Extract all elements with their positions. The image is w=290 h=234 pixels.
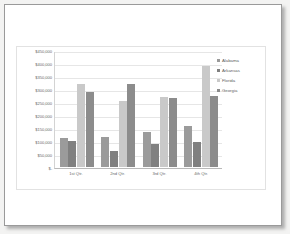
chart-legend: AlabamaArkansasFloridaGeorgia xyxy=(217,55,255,95)
bar-florida[interactable] xyxy=(160,97,168,167)
y-axis-tick-label: $300,000 xyxy=(35,89,52,93)
y-axis-tick-label: $50,000 xyxy=(38,154,52,158)
legend-swatch-icon xyxy=(217,59,220,62)
screenshot-canvas: $450,000$400,000$350,000$300,000$250,000… xyxy=(0,0,290,234)
legend-label: Arkansas xyxy=(222,68,240,73)
y-axis-tick-label: $200,000 xyxy=(35,115,52,119)
bar-georgia[interactable] xyxy=(169,98,177,167)
plot-area xyxy=(54,52,222,169)
legend-label: Florida xyxy=(222,78,235,83)
bar-alabama[interactable] xyxy=(60,138,68,167)
bar-arkansas[interactable] xyxy=(193,142,201,167)
legend-swatch-icon xyxy=(217,79,220,82)
legend-swatch-icon xyxy=(217,89,220,92)
bar-georgia[interactable] xyxy=(127,84,135,167)
legend-label: Georgia xyxy=(222,88,237,93)
bar-alabama[interactable] xyxy=(101,137,109,167)
x-axis: 1st Qtr.2nd Qtr.3rd Qtr.4th Qtr. xyxy=(55,171,222,176)
y-axis-tick-label: $350,000 xyxy=(35,76,52,80)
y-axis-tick-label: $150,000 xyxy=(35,128,52,132)
x-axis-tick-label: 4th Qtr. xyxy=(180,171,222,176)
legend-item[interactable]: Florida xyxy=(217,75,255,85)
bar-group xyxy=(98,52,140,167)
legend-swatch-icon xyxy=(217,69,220,72)
legend-label: Alabama xyxy=(222,58,239,63)
bar-arkansas[interactable] xyxy=(110,151,118,167)
y-axis-tick-label: $100,000 xyxy=(35,141,52,145)
x-axis-tick-label: 3rd Qtr. xyxy=(139,171,181,176)
legend-item[interactable]: Arkansas xyxy=(217,65,255,75)
y-axis-tick-label: $- xyxy=(48,167,52,171)
bar-group xyxy=(56,52,98,167)
bar-georgia[interactable] xyxy=(86,92,94,167)
bar-alabama[interactable] xyxy=(184,126,192,167)
document-page: $450,000$400,000$350,000$300,000$250,000… xyxy=(4,4,282,226)
bar-florida[interactable] xyxy=(202,66,210,167)
bar-florida[interactable] xyxy=(77,84,85,167)
bar-group xyxy=(139,52,181,167)
x-axis-tick-label: 1st Qtr. xyxy=(55,171,97,176)
bar-alabama[interactable] xyxy=(143,132,151,167)
legend-item[interactable]: Georgia xyxy=(217,85,255,95)
bar-arkansas[interactable] xyxy=(68,141,76,167)
y-axis-tick-label: $250,000 xyxy=(35,102,52,106)
legend-item[interactable]: Alabama xyxy=(217,55,255,65)
bar-arkansas[interactable] xyxy=(151,144,159,167)
bar-georgia[interactable] xyxy=(210,96,218,167)
y-axis-tick-label: $450,000 xyxy=(35,50,52,54)
bar-groups xyxy=(56,52,222,167)
bar-florida[interactable] xyxy=(119,101,127,167)
y-axis-tick-label: $400,000 xyxy=(35,63,52,67)
y-axis: $450,000$400,000$350,000$300,000$250,000… xyxy=(19,52,53,169)
x-axis-tick-label: 2nd Qtr. xyxy=(97,171,139,176)
bar-group xyxy=(181,52,223,167)
